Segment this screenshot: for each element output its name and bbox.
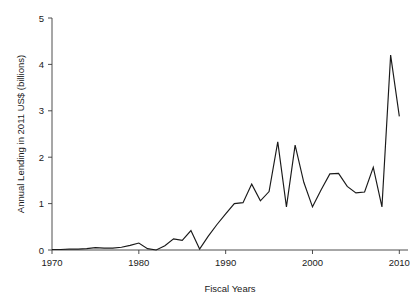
y-tick-label: 3	[39, 105, 44, 116]
chart-figure: 012345 19701980199020002010 Fiscal Years…	[0, 0, 411, 307]
y-tick-label: 1	[39, 198, 44, 209]
y-tick-label: 4	[39, 59, 44, 70]
x-tick-label: 1990	[215, 257, 236, 268]
y-tick-label: 2	[39, 152, 44, 163]
y-axis-title: Annual Lending in 2011 US$ (billions)	[15, 55, 26, 213]
y-tick-label: 5	[39, 13, 44, 24]
x-axis-ticks: 19701980199020002010	[41, 250, 409, 268]
x-tick-label: 2000	[302, 257, 323, 268]
x-tick-label: 1970	[41, 257, 62, 268]
y-axis: 012345	[39, 13, 52, 256]
x-axis-title: Fiscal Years	[204, 283, 255, 294]
x-tick-label: 2010	[389, 257, 410, 268]
y-tick-label: 0	[39, 245, 44, 256]
x-tick-label: 1980	[128, 257, 149, 268]
line-chart-canvas: 012345 19701980199020002010 Fiscal Years…	[0, 0, 411, 307]
y-axis-ticks: 012345	[39, 13, 52, 256]
x-axis: 19701980199020002010	[41, 250, 409, 268]
data-series-group	[52, 55, 399, 250]
annual-lending-line	[52, 55, 399, 250]
